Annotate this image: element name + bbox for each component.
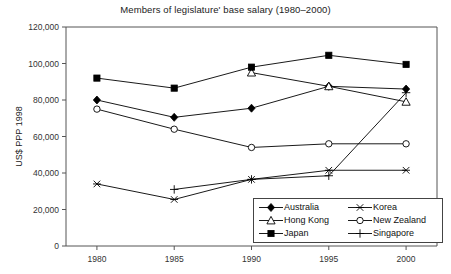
legend-entry[interactable]: Korea: [347, 201, 438, 214]
legend-label: Hong Kong: [284, 215, 329, 226]
legend-entry[interactable]: Japan: [258, 227, 341, 240]
series-singapore: [170, 89, 410, 194]
y-axis-tick-label: 80,000: [33, 95, 59, 105]
legend-label: Singapore: [373, 228, 414, 239]
chart-container: Members of legislature' base salary (198…: [0, 0, 451, 274]
y-axis-title: US$ PPP 1998: [14, 106, 24, 166]
legend-symbol-open-triangle: [258, 215, 284, 226]
legend-entry[interactable]: New Zealand: [347, 214, 438, 227]
legend-entry[interactable]: Australia: [258, 201, 341, 214]
x-axis-tick-label: 2000: [397, 254, 416, 264]
marker-filled-square: [326, 52, 332, 58]
marker-filled-diamond: [248, 104, 255, 112]
chart-legend: AustraliaKoreaHong KongNew ZealandJapanS…: [253, 198, 443, 243]
legend-label: Australia: [284, 202, 319, 213]
marker-asterisk: [402, 167, 410, 174]
x-axis-tick-label: 1990: [242, 254, 261, 264]
legend-symbol-open-circle: [347, 215, 373, 226]
legend-label: New Zealand: [373, 215, 426, 226]
marker-asterisk: [356, 204, 364, 211]
x-axis-tick-label: 1980: [87, 254, 106, 264]
y-axis-tick-label: 20,000: [33, 205, 59, 215]
y-axis-tick-label: 0: [54, 241, 59, 251]
y-axis-tick-label: 40,000: [33, 168, 59, 178]
marker-open-circle: [357, 217, 363, 223]
legend-symbol-asterisk: [347, 202, 373, 213]
marker-plus: [170, 185, 178, 193]
y-axis-tick-label: 100,000: [28, 59, 59, 69]
series-hong-kong: [247, 69, 410, 106]
marker-filled-diamond: [171, 113, 178, 121]
chart-series: [93, 52, 410, 203]
legend-symbol-plus: [347, 228, 373, 239]
legend-entry[interactable]: Singapore: [347, 227, 438, 240]
marker-open-circle: [171, 126, 177, 132]
marker-filled-diamond: [93, 96, 100, 104]
marker-plus: [356, 229, 364, 237]
marker-open-circle: [326, 141, 332, 147]
marker-open-circle: [403, 141, 409, 147]
marker-filled-square: [268, 230, 274, 236]
marker-asterisk: [93, 181, 101, 188]
legend-entry[interactable]: Hong Kong: [258, 214, 341, 227]
marker-filled-square: [248, 64, 254, 70]
series-polyline: [97, 170, 406, 199]
series-australia: [93, 82, 409, 121]
y-axis-tick-label: 120,000: [28, 22, 59, 32]
marker-filled-diamond: [267, 204, 274, 212]
y-axis-tick-label: 60,000: [33, 132, 59, 142]
legend-symbol-filled-square: [258, 228, 284, 239]
marker-filled-square: [403, 61, 409, 67]
marker-asterisk: [170, 196, 178, 203]
legend-label: Korea: [373, 202, 397, 213]
marker-filled-square: [171, 85, 177, 91]
series-polyline: [97, 109, 406, 147]
x-axis-tick-label: 1995: [319, 254, 338, 264]
marker-open-circle: [248, 144, 254, 150]
marker-open-circle: [94, 106, 100, 112]
x-axis-tick-label: 1985: [165, 254, 184, 264]
legend-symbol-filled-diamond: [258, 202, 284, 213]
marker-filled-square: [94, 75, 100, 81]
legend-label: Japan: [284, 228, 309, 239]
